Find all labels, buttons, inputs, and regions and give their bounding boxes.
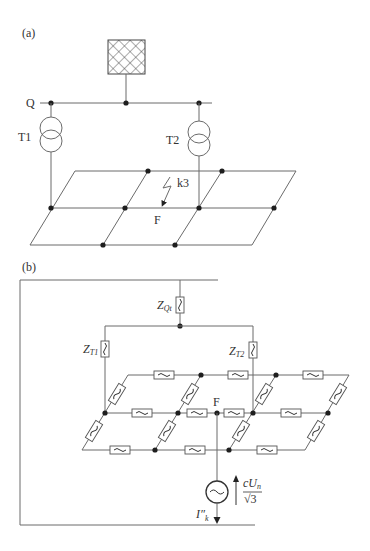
grid-node [325,410,330,415]
grid-node [250,410,255,415]
zt1-label: ZT1 [83,342,98,357]
fault-point-f-label: F [154,213,161,227]
grid-node [100,242,105,247]
grid-node [271,205,276,210]
fault-lightning-icon [163,177,171,204]
fault-k3-label: k3 [177,176,189,190]
impedance-zqt-icon [176,297,184,313]
zqt-label: ZQt [157,298,172,313]
impedance-zt1-icon [101,341,109,357]
t1-label: T1 [18,130,31,144]
grid-node [48,205,53,210]
diagram-canvas: (a) Q T1 T2 [0,0,370,551]
panel-a: (a) Q T1 T2 [18,26,296,248]
grid-node [273,372,278,377]
t2-label: T2 [166,133,179,147]
mesh-grid [30,171,296,245]
panel-b-label: (b) [22,260,36,274]
grid-node [196,205,201,210]
grid-node [122,205,127,210]
transformer-t1-icon [40,117,62,152]
voltage-denominator: √3 [244,492,257,506]
panel-a-label: (a) [22,26,35,40]
grid-node [226,447,231,452]
bus-q-label: Q [26,96,35,110]
grid-node [145,168,150,173]
ac-voltage-source-icon [206,481,228,503]
current-arrow-icon [214,517,221,524]
voltage-arrow-icon [233,475,239,482]
grid-node [219,168,224,173]
zt2-label: ZT2 [229,344,244,359]
bus-node [123,100,128,105]
current-ik-label: I″k [195,507,209,523]
grid-node [198,372,203,377]
panel-b: (b) ZQt ZT1 ZT2 [20,260,349,525]
grid-node [152,447,157,452]
transformer-t2-icon [188,121,210,156]
network-feeder-icon [108,40,145,74]
grid-node [175,410,180,415]
grid-node [102,410,107,415]
impedance-zt2-icon [249,342,257,358]
grid-node [172,242,177,247]
fault-point-f-label: F [213,395,220,409]
voltage-numerator: cUn [243,476,261,491]
